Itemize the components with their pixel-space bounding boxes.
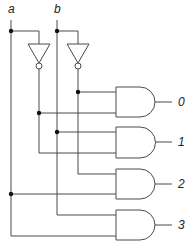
and-gate-0 bbox=[116, 87, 172, 117]
input-label-b: b bbox=[54, 2, 61, 16]
and-gate-3 bbox=[116, 210, 172, 240]
inverter-b bbox=[67, 44, 89, 69]
wire-a bbox=[11, 20, 116, 236]
and-gate-1 bbox=[116, 127, 172, 158]
junction-dot bbox=[9, 192, 13, 196]
output-label-0: 0 bbox=[178, 95, 185, 109]
junction-dot bbox=[55, 130, 59, 134]
output-label-1: 1 bbox=[178, 135, 185, 149]
output-label-2: 2 bbox=[177, 177, 185, 191]
inverter-a bbox=[28, 44, 50, 69]
and-gate-2 bbox=[116, 169, 172, 199]
junction-dot bbox=[55, 29, 59, 33]
wire-not-b bbox=[78, 69, 116, 174]
input-label-a: a bbox=[8, 2, 15, 16]
output-label-3: 3 bbox=[178, 218, 185, 232]
junction-dot bbox=[76, 90, 80, 94]
junction-dot bbox=[9, 29, 13, 33]
decoder-diagram: a b bbox=[0, 0, 194, 244]
junction-dot bbox=[37, 111, 41, 115]
